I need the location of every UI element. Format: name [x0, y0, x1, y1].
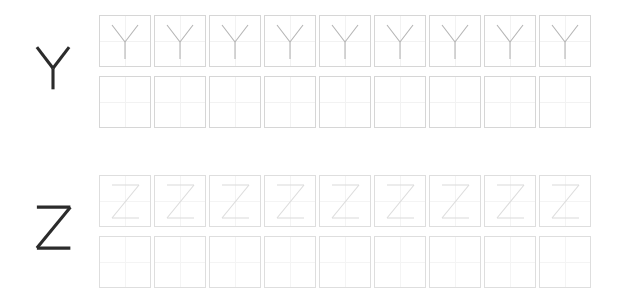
trace-glyph-z	[375, 176, 425, 226]
trace-box[interactable]	[319, 15, 371, 67]
trace-glyph-y	[485, 16, 535, 66]
trace-row	[99, 175, 591, 227]
blank-practice-box[interactable]	[209, 76, 261, 128]
trace-glyph-y	[155, 16, 205, 66]
blank-practice-box[interactable]	[154, 76, 206, 128]
blank-practice-box[interactable]	[154, 236, 206, 288]
guide-line-horizontal	[485, 262, 535, 263]
trace-box[interactable]	[264, 15, 316, 67]
trace-glyph-y	[210, 16, 260, 66]
trace-glyph-z	[540, 176, 590, 226]
trace-glyph-z	[155, 176, 205, 226]
guide-line-horizontal	[375, 102, 425, 103]
trace-glyph-y	[265, 16, 315, 66]
blank-practice-box[interactable]	[539, 76, 591, 128]
blank-practice-box[interactable]	[374, 236, 426, 288]
blank-practice-box[interactable]	[484, 76, 536, 128]
guide-line-vertical	[235, 77, 236, 127]
blank-practice-box[interactable]	[319, 76, 371, 128]
guide-line-horizontal	[210, 262, 260, 263]
guide-line-vertical	[290, 77, 291, 127]
blank-practice-box[interactable]	[99, 236, 151, 288]
trace-box[interactable]	[154, 15, 206, 67]
trace-box[interactable]	[484, 175, 536, 227]
trace-glyph-z	[100, 176, 150, 226]
blank-practice-box[interactable]	[209, 236, 261, 288]
trace-box[interactable]	[209, 15, 261, 67]
blank-practice-box[interactable]	[539, 236, 591, 288]
letter-section-z	[0, 160, 623, 294]
trace-box[interactable]	[374, 175, 426, 227]
guide-line-horizontal	[540, 102, 590, 103]
trace-box[interactable]	[209, 175, 261, 227]
guide-line-vertical	[455, 77, 456, 127]
guide-line-horizontal	[430, 102, 480, 103]
blank-practice-box[interactable]	[429, 236, 481, 288]
guide-line-vertical	[235, 237, 236, 287]
model-letter-y	[22, 28, 84, 106]
trace-box[interactable]	[539, 15, 591, 67]
guide-line-vertical	[510, 237, 511, 287]
trace-glyph-z	[485, 176, 535, 226]
guide-line-vertical	[400, 237, 401, 287]
blank-practice-box[interactable]	[264, 236, 316, 288]
trace-glyph-y	[320, 16, 370, 66]
trace-box[interactable]	[484, 15, 536, 67]
guide-line-horizontal	[430, 262, 480, 263]
guide-line-horizontal	[265, 102, 315, 103]
guide-line-horizontal	[485, 102, 535, 103]
guide-line-vertical	[180, 77, 181, 127]
practice-box-grid	[99, 175, 591, 288]
guide-line-horizontal	[320, 262, 370, 263]
guide-line-horizontal	[210, 102, 260, 103]
trace-box[interactable]	[429, 15, 481, 67]
guide-line-vertical	[180, 237, 181, 287]
guide-line-vertical	[290, 237, 291, 287]
guide-line-vertical	[510, 77, 511, 127]
blank-row	[99, 76, 591, 128]
guide-line-vertical	[345, 237, 346, 287]
guide-line-horizontal	[155, 262, 205, 263]
trace-box[interactable]	[429, 175, 481, 227]
trace-box[interactable]	[264, 175, 316, 227]
trace-glyph-z	[320, 176, 370, 226]
guide-line-vertical	[455, 237, 456, 287]
trace-row	[99, 15, 591, 67]
letter-tracing-worksheet	[0, 0, 623, 294]
blank-practice-box[interactable]	[484, 236, 536, 288]
guide-line-vertical	[125, 237, 126, 287]
trace-glyph-z	[210, 176, 260, 226]
trace-box[interactable]	[99, 175, 151, 227]
trace-box[interactable]	[99, 15, 151, 67]
blank-row	[99, 236, 591, 288]
trace-glyph-y	[540, 16, 590, 66]
blank-practice-box[interactable]	[264, 76, 316, 128]
guide-line-horizontal	[375, 262, 425, 263]
letter-section-y	[0, 0, 623, 147]
guide-line-vertical	[345, 77, 346, 127]
trace-box[interactable]	[374, 15, 426, 67]
trace-box[interactable]	[539, 175, 591, 227]
practice-box-grid	[99, 15, 591, 128]
guide-line-horizontal	[265, 262, 315, 263]
guide-line-vertical	[565, 237, 566, 287]
trace-glyph-z	[265, 176, 315, 226]
guide-line-horizontal	[155, 102, 205, 103]
trace-glyph-z	[430, 176, 480, 226]
guide-line-vertical	[125, 77, 126, 127]
blank-practice-box[interactable]	[99, 76, 151, 128]
trace-box[interactable]	[154, 175, 206, 227]
blank-practice-box[interactable]	[429, 76, 481, 128]
blank-practice-box[interactable]	[319, 236, 371, 288]
model-letter-z	[22, 188, 84, 266]
guide-line-horizontal	[100, 102, 150, 103]
guide-line-vertical	[565, 77, 566, 127]
trace-glyph-y	[375, 16, 425, 66]
trace-box[interactable]	[319, 175, 371, 227]
guide-line-horizontal	[100, 262, 150, 263]
trace-glyph-y	[100, 16, 150, 66]
guide-line-horizontal	[540, 262, 590, 263]
blank-practice-box[interactable]	[374, 76, 426, 128]
trace-glyph-y	[430, 16, 480, 66]
guide-line-vertical	[400, 77, 401, 127]
